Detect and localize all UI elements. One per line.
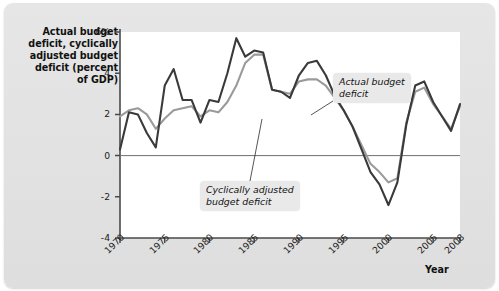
y-tick-label: 4 [84,67,110,78]
callout-actual-budget-deficit: Actual budget deficit [333,73,411,103]
y-tick-label: 0 [84,150,110,161]
y-tick-label: 6% [84,26,110,37]
callout-cyclically-adjusted-budget-deficit: Cyclically adjusted budget deficit [200,181,300,211]
y-tick-label: -2 [84,191,110,202]
chart-plot-area: Actual budget deficit, cyclically adjust… [4,3,495,288]
x-axis-title: Year [425,264,449,275]
y-tick-label: 2 [84,108,110,119]
figure-panel: Actual budget deficit, cyclically adjust… [4,3,495,288]
y-tick-label: -4 [84,232,110,243]
